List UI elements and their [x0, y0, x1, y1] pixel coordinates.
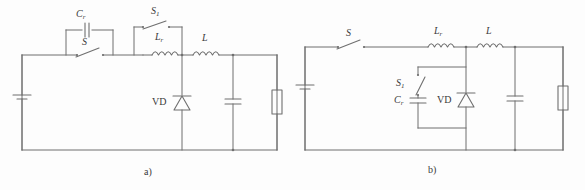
inductor-l-b: [477, 44, 503, 47]
circuit-figure: Cr S S1 Lr L VD a) S Lr L S1 Cr VD b): [0, 0, 585, 190]
panel-a-schematic: [0, 0, 585, 190]
inductor-l-a: [193, 52, 219, 55]
label-l-a: L: [202, 33, 208, 43]
switch-s-a: [76, 48, 104, 57]
output-capacitor-a: [225, 54, 241, 152]
label-l-b: L: [486, 26, 492, 36]
diode-vd-b: [457, 46, 475, 150]
capacitor-cr-b: [410, 98, 426, 103]
battery-b: [296, 47, 314, 150]
diode-vd-a: [173, 54, 191, 150]
label-lr-a: Lr: [155, 32, 163, 42]
label-vd-a: VD: [152, 97, 166, 107]
switch-s-b: [337, 40, 365, 49]
caption-panel-b: b): [428, 164, 436, 175]
label-s1-b: S1: [396, 78, 405, 88]
label-s-a: S: [82, 37, 87, 47]
label-s1-a: S1: [151, 6, 160, 16]
panel-b-group: [296, 40, 568, 151]
label-vd-b: VD: [437, 95, 451, 105]
panel-a-group: [13, 21, 282, 151]
label-lr-b: Lr: [434, 26, 442, 36]
capacitor-cr-a: [66, 23, 113, 55]
output-capacitor-b: [507, 46, 523, 152]
inductor-lr-a: [152, 52, 178, 55]
inductor-lr-b: [428, 44, 454, 47]
label-cr-b: Cr: [394, 95, 403, 105]
battery-a: [13, 55, 31, 150]
switch-s1-b: [416, 74, 425, 96]
label-cr-a: Cr: [76, 9, 85, 19]
label-s-b: S: [346, 28, 351, 38]
caption-panel-a: a): [144, 166, 152, 177]
